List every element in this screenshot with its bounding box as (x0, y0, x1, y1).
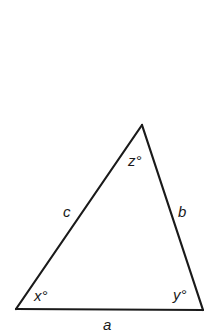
side-a-base (16, 309, 203, 310)
angle-x-label: x° (33, 287, 48, 304)
angle-z-label: z° (127, 152, 142, 169)
triangle-diagram: x° y° z° c b a (0, 0, 217, 335)
side-c-label: c (63, 203, 71, 220)
side-c-left (16, 125, 142, 309)
side-b-right (142, 125, 203, 310)
angle-y-label: y° (172, 286, 187, 303)
side-a-label: a (103, 316, 111, 333)
side-b-label: b (178, 203, 186, 220)
